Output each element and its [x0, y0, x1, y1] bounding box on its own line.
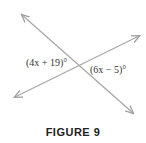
angle-label-right: (6x − 5)°	[90, 64, 126, 76]
angle-label-left: (4x + 19)°	[26, 57, 67, 69]
figure-diagram: (4x + 19)° (6x − 5)° FIGURE 9	[0, 0, 146, 143]
figure-caption: FIGURE 9	[46, 126, 101, 138]
